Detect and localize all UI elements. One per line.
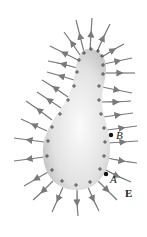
- conductor-diagram: B A E: [0, 0, 147, 237]
- label-b: B: [116, 129, 123, 141]
- point-a: [104, 172, 108, 176]
- label-field-e: E: [125, 187, 132, 199]
- label-a: A: [109, 173, 117, 185]
- point-b: [109, 133, 113, 137]
